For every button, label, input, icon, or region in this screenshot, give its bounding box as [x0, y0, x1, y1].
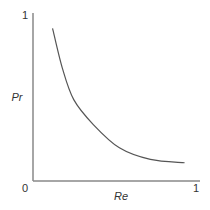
y-tick-label-top: 1	[22, 9, 28, 21]
y-axis-label: Pr	[12, 91, 24, 103]
x-tick-label-end: 1	[193, 182, 199, 194]
series-line-0	[53, 28, 185, 162]
series-layer	[53, 28, 185, 162]
x-tick-label-origin: 0	[22, 182, 28, 194]
chart: 1 0 1 Pr Re	[0, 0, 210, 210]
x-axis-label: Re	[114, 190, 128, 202]
